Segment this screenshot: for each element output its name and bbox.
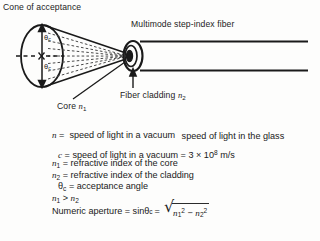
formula-theta-c-definition: θc = acceptance angle [52, 181, 320, 192]
fiber-endface-core-ellipse [127, 51, 133, 62]
refractive-index-equals: = [59, 130, 64, 140]
inequality-right-subscript: 2 [75, 196, 79, 203]
theta-c-subscript: c [63, 185, 66, 192]
formula-speed-of-light: c = speed of light in a vacuum = 3 × 108… [52, 147, 320, 158]
label-theta-c-lower: θc [44, 62, 51, 71]
n1-text: = refractive index of the core [63, 158, 178, 168]
radicand: n12 − n22 [172, 203, 209, 221]
theta-c-text: = acceptance angle [69, 181, 148, 191]
theta-subscript-upper: c [48, 36, 51, 42]
label-theta-c-upper: θc [44, 33, 51, 42]
speed-of-light-units: m/s [218, 150, 235, 160]
fiber-cladding-text: Fiber cladding [120, 90, 178, 100]
formula-refractive-index: n = speed of light in a vacuum speed of … [52, 124, 320, 147]
n1-subscript: 1 [57, 162, 61, 169]
label-core: Core n1 [57, 101, 86, 112]
inequality-left-subscript: 1 [57, 196, 61, 203]
refractive-index-denominator: speed of light in the glass [180, 130, 287, 141]
figure-page: Cone of acceptance Multimode step-index … [0, 0, 320, 241]
numeric-aperture-equals: = [153, 206, 162, 217]
refractive-index-numerator: speed of light in a vacuum [67, 130, 177, 141]
core-text: Core [57, 101, 79, 111]
numeric-aperture-label: Numeric aperture = sin [52, 206, 144, 217]
refractive-index-lhs: n = [52, 130, 67, 141]
radical-sign-icon: √ [164, 201, 174, 219]
theta-subscript-lower: c [48, 65, 51, 71]
radicand-minus: − [185, 207, 195, 217]
label-fiber-cladding: Fiber cladding n2 [120, 90, 186, 101]
core-subscript: 1 [83, 105, 87, 112]
formula-numeric-aperture: Numeric aperture = sin θc = √ n12 − n22 [52, 204, 320, 219]
n2-subscript: 2 [57, 173, 61, 180]
radicand-n2-exponent: 2 [204, 207, 208, 214]
label-cone-of-acceptance: Cone of acceptance [3, 2, 81, 12]
numeric-aperture-radical: √ n12 − n22 [164, 203, 209, 221]
cone-upper-slant [44, 25, 126, 53]
label-multimode-step-index-fiber: Multimode step-index fiber [131, 19, 234, 29]
n2-text: = refractive index of the cladding [63, 170, 194, 180]
formula-n2-definition: n2 = refractive index of the cladding [52, 170, 320, 181]
fiber-cladding-subscript: 2 [182, 94, 186, 101]
refractive-index-symbol: n [52, 130, 57, 140]
inequality-operator: > [63, 193, 71, 203]
formula-n1-definition: n1 = refractive index of the core [52, 158, 320, 169]
cone-lower-slant [44, 59, 126, 87]
formula-block: n = speed of light in a vacuum speed of … [52, 124, 320, 219]
refractive-index-fraction: speed of light in a vacuum speed of ligh… [67, 130, 286, 141]
